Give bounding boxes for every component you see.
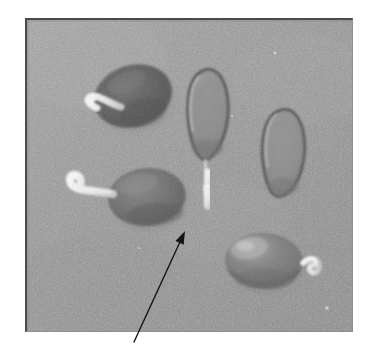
photograph-canvas	[27, 20, 353, 332]
photograph	[25, 18, 353, 332]
figure-root	[0, 0, 365, 355]
